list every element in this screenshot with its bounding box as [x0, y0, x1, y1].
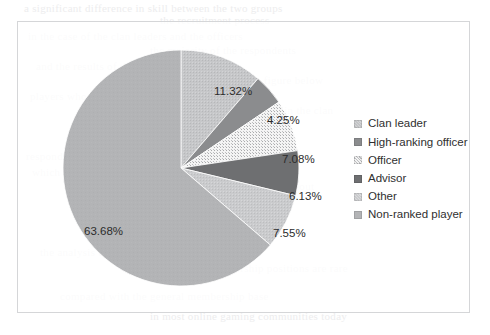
legend-item-label: Non-ranked player — [368, 209, 463, 221]
legend-item-label: High-ranking officer — [368, 137, 468, 149]
legend-swatch-icon — [354, 193, 362, 201]
chart-screenshot: a significant difference in skill betwee… — [0, 0, 490, 335]
legend-item-label: Officer — [368, 155, 402, 167]
slice-value-label: 7.08% — [282, 153, 315, 165]
legend-item[interactable]: Advisor — [354, 170, 486, 188]
slice-value-label: 7.55% — [273, 227, 306, 239]
legend-item[interactable]: Officer — [354, 151, 486, 169]
pie-chart — [61, 48, 301, 288]
slice-value-label: 11.32% — [214, 85, 252, 97]
legend-swatch-icon — [354, 175, 362, 183]
slice-value-label: 4.25% — [267, 114, 300, 126]
slice-value-label: 6.13% — [289, 190, 322, 202]
legend-item-label: Advisor — [368, 173, 406, 185]
legend-swatch-icon — [354, 138, 362, 146]
pie-svg — [61, 48, 301, 288]
pie-slices — [63, 50, 299, 286]
legend-item-label: Other — [368, 191, 397, 203]
legend-item[interactable]: Clan leader — [354, 115, 486, 133]
legend-item-label: Clan leader — [368, 118, 427, 130]
legend-swatch-icon — [354, 211, 362, 219]
legend-item[interactable]: Non-ranked player — [354, 206, 486, 224]
legend-swatch-icon — [354, 156, 362, 164]
legend-item[interactable]: High-ranking officer — [354, 133, 486, 151]
legend-item[interactable]: Other — [354, 188, 486, 206]
legend-swatch-icon — [354, 120, 362, 128]
chart-frame: 11.32%4.25%7.08%6.13%7.55%63.68% Clan le… — [17, 21, 470, 313]
chart-legend: Clan leaderHigh-ranking officerOfficerAd… — [354, 115, 486, 224]
slice-value-label: 63.68% — [84, 225, 123, 237]
background-text-line: a significant difference in skill betwee… — [24, 2, 283, 14]
